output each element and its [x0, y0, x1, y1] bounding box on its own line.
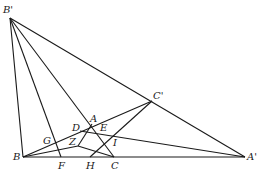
- point-label-Bp: B': [2, 4, 13, 15]
- point-label-H: H: [85, 160, 95, 171]
- geometry-diagram: B'C'A'BFHCADEZIG: [0, 0, 264, 182]
- segment-Bp-F: [10, 18, 61, 157]
- point-label-C: C: [111, 160, 119, 171]
- segment-Bp-C: [10, 18, 114, 157]
- point-label-I: I: [112, 137, 118, 148]
- point-label-A: A: [89, 113, 97, 124]
- segment-Bp-B: [10, 18, 23, 157]
- point-label-Z: Z: [68, 136, 77, 147]
- segment-Z-A: [78, 124, 92, 146]
- point-label-Cp: C': [153, 90, 163, 101]
- segment-B-Z: [23, 146, 78, 157]
- point-label-Ap: A': [246, 151, 257, 162]
- point-label-F: F: [57, 160, 66, 171]
- point-label-G: G: [43, 135, 51, 146]
- point-label-B: B: [12, 151, 20, 162]
- point-label-E: E: [99, 122, 108, 133]
- point-label-D: D: [71, 122, 80, 133]
